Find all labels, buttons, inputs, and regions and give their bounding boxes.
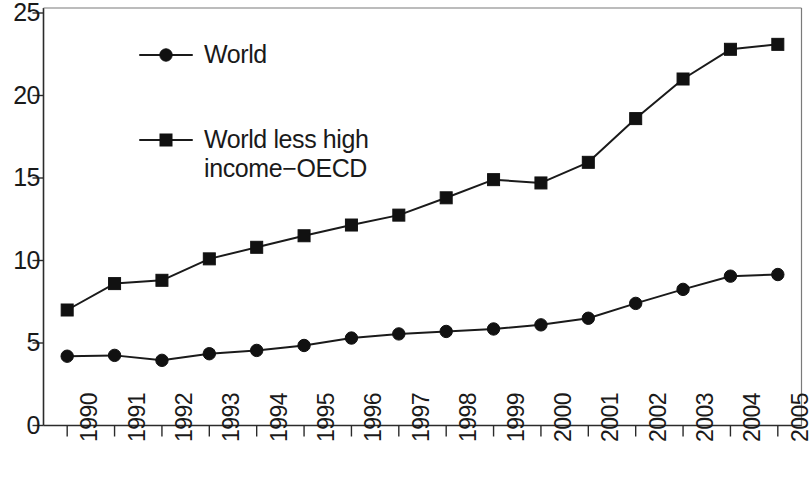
data-point-marker (677, 73, 689, 85)
data-point-marker (393, 209, 405, 221)
x-axis-tick-label: 2004 (739, 392, 766, 441)
legend-marker-square (160, 134, 172, 146)
y-axis-tick-label: 10 (0, 248, 40, 273)
data-point-marker (156, 274, 168, 286)
x-axis-tick-label: 2000 (550, 392, 577, 441)
x-axis-tick-label: 2005 (787, 392, 809, 441)
data-point-marker (488, 174, 500, 186)
x-axis-tick-label: 1994 (266, 392, 293, 441)
x-axis-tick-label: 1998 (455, 392, 482, 441)
y-axis-tick-label: 5 (0, 330, 40, 355)
data-point-marker (535, 319, 547, 331)
data-point-marker (772, 38, 784, 50)
data-point-marker (487, 323, 499, 335)
data-point-marker (61, 350, 73, 362)
data-point-marker (393, 328, 405, 340)
x-axis-tick-label: 1999 (503, 392, 530, 441)
data-point-marker (345, 332, 357, 344)
x-axis-tick-label: 2002 (645, 392, 672, 441)
x-axis-tick-label: 1990 (76, 392, 103, 441)
data-point-marker (535, 177, 547, 189)
data-series-group (61, 38, 784, 366)
legend-markers (140, 49, 192, 146)
y-axis-tick-label: 15 (0, 165, 40, 190)
data-point-marker (203, 253, 215, 265)
y-axis-tick-label: 20 (0, 83, 40, 108)
chart-figure: 0510152025 19901991199219931994199519961… (0, 0, 809, 497)
data-point-marker (108, 349, 120, 361)
data-point-marker (156, 354, 168, 366)
x-axis-tick-label: 1991 (124, 392, 151, 441)
data-point-marker (724, 270, 736, 282)
data-point-marker (772, 268, 784, 280)
data-point-marker (440, 325, 452, 337)
data-point-marker (203, 348, 215, 360)
data-point-marker (440, 192, 452, 204)
y-axis-ticks (33, 13, 44, 426)
x-axis-tick-label: 2003 (692, 392, 719, 441)
data-point-marker (677, 283, 689, 295)
x-axis-tick-label: 1997 (408, 392, 435, 441)
data-point-marker (250, 344, 262, 356)
data-point-marker (582, 312, 594, 324)
x-axis-tick-label: 1993 (218, 392, 245, 441)
y-axis-tick-label: 25 (0, 0, 40, 25)
x-axis-tick-label: 2001 (597, 392, 624, 441)
legend-label: World less high income−OECD (204, 125, 368, 183)
data-point-marker (109, 278, 121, 290)
x-axis-tick-label: 1996 (360, 392, 387, 441)
data-point-marker (251, 241, 263, 253)
data-point-marker (345, 219, 357, 231)
data-point-marker (629, 297, 641, 309)
legend-label: World (204, 40, 267, 69)
data-point-marker (298, 230, 310, 242)
data-point-marker (630, 113, 642, 125)
series-line-2 (67, 44, 778, 310)
data-point-marker (298, 339, 310, 351)
x-axis-tick-label: 1992 (171, 392, 198, 441)
y-axis-tick-label: 0 (0, 413, 40, 438)
x-axis-tick-label: 1995 (313, 392, 340, 441)
data-point-marker (61, 304, 73, 316)
chart-plot-area (0, 0, 809, 497)
legend-marker-circle (160, 49, 172, 61)
data-point-marker (724, 43, 736, 55)
data-point-marker (582, 156, 594, 168)
series-line-1 (67, 275, 778, 361)
